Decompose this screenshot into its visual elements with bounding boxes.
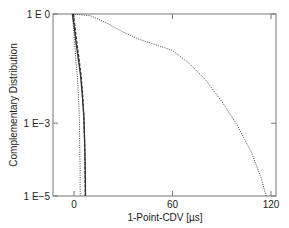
plot-frame (53, 14, 276, 196)
x-tick-label: 60 (167, 199, 179, 210)
x-axis-label: 1-Point-CDV [µs] (127, 212, 202, 223)
series-dashed (73, 14, 85, 196)
x-tick-label: 120 (263, 199, 280, 210)
axis-ticks (53, 14, 276, 196)
chart: 0601201 E 01 E−31 E−5 1-Point-CDV [µs] C… (0, 0, 289, 228)
y-axis-label: Complementary Distribution (8, 43, 19, 166)
y-tick-label: 1 E 0 (27, 9, 51, 20)
data-series (72, 14, 266, 196)
series-dotted-wide (72, 14, 266, 196)
y-tick-label: 1 E−3 (24, 118, 51, 129)
tick-labels: 0601201 E 01 E−31 E−5 (24, 9, 280, 211)
x-tick-label: 0 (71, 199, 77, 210)
y-tick-label: 1 E−5 (24, 191, 51, 202)
